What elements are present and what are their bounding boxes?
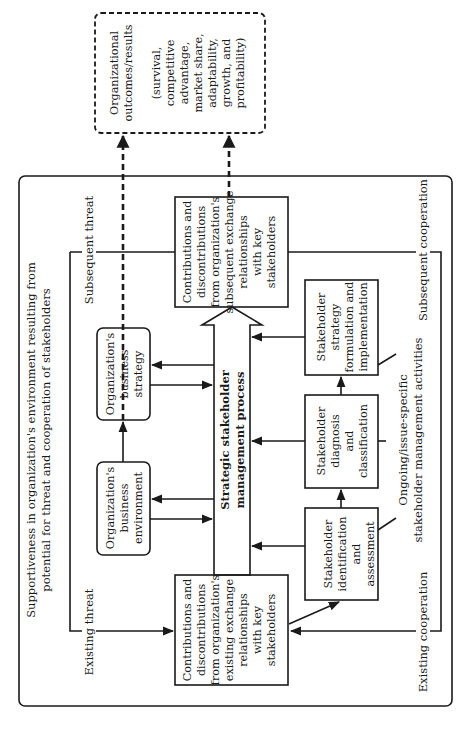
svg-text:Supportiveness in organization: Supportiveness in organization's environ…: [24, 262, 38, 618]
svg-text:environment: environment: [132, 472, 145, 544]
business-strategy-text: Organization's business strategy: [104, 332, 145, 415]
svg-text:business: business: [118, 483, 131, 532]
existing-contributions-text: Contributions and discontributions from …: [181, 575, 278, 686]
svg-text:strategy: strategy: [132, 350, 145, 398]
svg-text:potential for threat and coope: potential for threat and cooperation of …: [39, 288, 53, 591]
svg-text:Stakeholder: Stakeholder: [315, 292, 328, 362]
svg-text:from organization's: from organization's: [209, 575, 222, 686]
svg-text:strategy: strategy: [329, 303, 342, 351]
environment-title: Supportiveness in organization's environ…: [24, 262, 53, 618]
subsequent-contributions-text: Contributions and discontributions from …: [181, 190, 278, 313]
svg-text:(survival,: (survival,: [150, 47, 163, 100]
stakeholder-management-diagram: Supportiveness in organization's environ…: [0, 0, 471, 732]
svg-text:formulation and: formulation and: [343, 282, 356, 373]
svg-text:profitability): profitability): [234, 38, 247, 109]
svg-text:stakeholder management activit: stakeholder management activities: [411, 337, 425, 542]
business-environment-text: Organization's business environment: [104, 466, 145, 549]
svg-text:identification: identification: [336, 516, 349, 591]
svg-text:discontributions: discontributions: [195, 206, 208, 298]
svg-text:management process: management process: [233, 372, 247, 509]
svg-text:stakeholders: stakeholders: [265, 593, 278, 666]
svg-text:competitive: competitive: [164, 39, 177, 106]
subsequent-threat-label: Subsequent threat: [82, 195, 96, 304]
svg-text:Organization's: Organization's: [104, 332, 117, 415]
svg-text:discontributions: discontributions: [195, 584, 208, 676]
svg-text:Organization's: Organization's: [104, 466, 117, 549]
svg-text:and: and: [350, 543, 363, 564]
svg-text:and: and: [343, 430, 356, 451]
svg-text:assessment: assessment: [364, 521, 377, 587]
svg-text:Stakeholder: Stakeholder: [315, 406, 328, 476]
threat-line: [70, 252, 173, 631]
svg-text:with key: with key: [251, 605, 264, 654]
svg-text:diagnosis: diagnosis: [329, 414, 342, 468]
stakeholder-strategy-text: Stakeholder strategy formulation and imp…: [315, 282, 370, 373]
svg-text:Subsequent cooperation: Subsequent cooperation: [416, 178, 430, 321]
svg-text:adaptability,: adaptability,: [206, 38, 219, 108]
svg-text:Strategic stakeholder: Strategic stakeholder: [218, 369, 232, 509]
process-label: Strategic stakeholder management process: [218, 369, 247, 509]
svg-text:stakeholders: stakeholders: [265, 215, 278, 288]
svg-text:relationships: relationships: [237, 215, 250, 289]
subsequent-cooperation-label: Subsequent cooperation: [416, 178, 430, 321]
svg-text:relationships: relationships: [237, 593, 250, 667]
svg-text:implementation: implementation: [357, 282, 370, 371]
existing-cooperation-label: Existing cooperation: [416, 571, 430, 692]
stakeholder-identification-text: Stakeholder identification and assessmen…: [322, 516, 377, 591]
svg-text:Ongoing/issue-specific: Ongoing/issue-specific: [396, 374, 410, 505]
svg-text:market share,: market share,: [192, 33, 205, 112]
svg-text:Existing threat: Existing threat: [82, 588, 96, 675]
ongoing-tick-1: [378, 354, 396, 365]
arrow-existing-to-identification: [289, 602, 339, 624]
svg-text:outcomes/results: outcomes/results: [122, 24, 135, 121]
svg-text:subsequent exchange: subsequent exchange: [223, 190, 236, 313]
svg-text:Contributions and: Contributions and: [181, 201, 194, 304]
existing-threat-label: Existing threat: [82, 588, 96, 675]
outcomes-text: Organizational outcomes/results (surviva…: [108, 24, 247, 121]
ongoing-activities-label: Ongoing/issue-specific stakeholder manag…: [396, 337, 425, 542]
stakeholder-diagnosis-text: Stakeholder diagnosis and classification: [315, 404, 370, 478]
svg-text:Organizational: Organizational: [108, 31, 121, 115]
svg-text:Subsequent threat: Subsequent threat: [82, 195, 96, 304]
svg-text:advantage,: advantage,: [178, 42, 191, 105]
ongoing-tick-3: [378, 518, 396, 530]
svg-text:from organization's: from organization's: [209, 197, 222, 308]
svg-text:business: business: [118, 349, 131, 398]
svg-text:with key: with key: [251, 227, 264, 276]
svg-text:Existing cooperation: Existing cooperation: [416, 571, 430, 692]
svg-text:existing exchange: existing exchange: [223, 578, 236, 681]
svg-text:classification: classification: [357, 404, 370, 478]
svg-text:Stakeholder: Stakeholder: [322, 519, 335, 589]
svg-text:Contributions and: Contributions and: [181, 579, 194, 682]
svg-text:growth, and: growth, and: [220, 39, 233, 108]
